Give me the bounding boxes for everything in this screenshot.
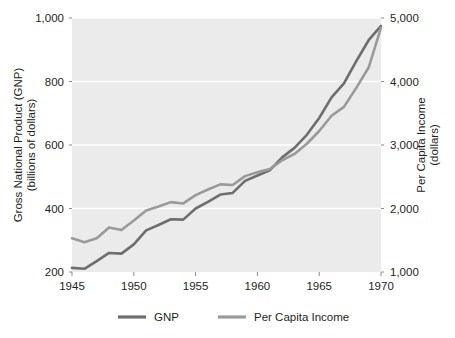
y-tick-label: 200: [45, 266, 64, 278]
y2-axis-subtitle: (dollars): [428, 124, 440, 166]
y-tick-label: 600: [45, 139, 64, 151]
y-axis-subtitle: (billions of dollars): [25, 98, 37, 191]
legend-label: GNP: [154, 311, 179, 323]
x-tick-label: 1965: [306, 280, 332, 292]
y2-tick-label: 2,000: [390, 203, 419, 215]
chart-container: 2004006008001,000 1,0002,0003,0004,0005,…: [0, 0, 455, 338]
x-tick-label: 1970: [368, 280, 394, 292]
x-tick-label: 1950: [121, 280, 147, 292]
y2-tick-label: 5,000: [390, 12, 419, 24]
line-chart: 2004006008001,000 1,0002,0003,0004,0005,…: [0, 0, 455, 338]
y2-tick-label: 4,000: [390, 76, 419, 88]
x-tick-label: 1960: [245, 280, 271, 292]
x-tick-label: 1945: [59, 280, 85, 292]
y-axis-title: Gross National Product (GNP): [12, 68, 24, 223]
x-tick-label: 1955: [183, 280, 209, 292]
y2-axis-title: Per Capita Income: [415, 97, 427, 192]
y-tick-label: 800: [45, 76, 64, 88]
y-tick-label: 1,000: [35, 12, 64, 24]
legend-label: Per Capita Income: [254, 311, 349, 323]
y-tick-label: 400: [45, 203, 64, 215]
y2-tick-label: 1,000: [390, 266, 419, 278]
